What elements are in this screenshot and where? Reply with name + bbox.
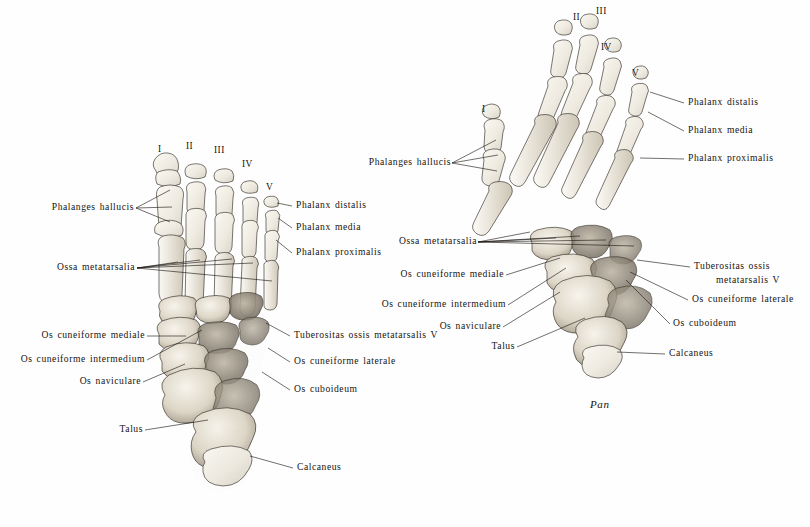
left-foot-skeleton [153,153,280,490]
label-os-naviculare-left: Os naviculare [0,375,141,387]
numeral-3-right: III [596,6,607,16]
label-os-cuneiforme-intermedium-left: Os cuneiforme intermedium [0,353,145,365]
label-calcaneus-right: Calcaneus [669,347,713,359]
label-talus-right: Talus [410,340,515,352]
figure-caption-pan: Pan [590,398,610,410]
label-os-cuneiforme-laterale-right: Os cuneiforme laterale [692,293,794,305]
numeral-4-left: IV [242,159,253,169]
label-tuberositas-line1-right: Tuberositas ossis [694,260,770,272]
caption-initial: Pan [590,398,610,410]
numeral-5-left: V [266,182,273,192]
right-digit-1 [473,104,513,235]
label-os-naviculare-right: Os naviculare [390,320,501,332]
numeral-1-left: I [158,144,162,154]
label-tuberositas-line2-right: metatarsalis V [716,274,780,286]
label-os-cuneiforme-intermedium-right: Os cuneiforme intermedium [362,298,506,310]
numeral-4-right: IV [601,42,612,52]
label-os-cuneiforme-mediale-left: Os cuneiforme mediale [0,329,145,341]
left-digit-1 [153,153,185,304]
right-digits-2-5 [510,14,649,210]
label-os-cuneiforme-mediale-right: Os cuneiforme mediale [360,268,504,280]
label-phalanges-hallucis-left: Phalanges hallucis [0,201,134,213]
label-phalanx-distalis-left: Phalanx distalis [296,199,367,211]
label-phalanx-media-right: Phalanx media [688,124,753,136]
label-os-cuboideum-left: Os cuboideum [294,383,358,395]
label-phalanges-hallucis-right: Phalanges hallucis [318,156,451,168]
label-talus-left: Talus [0,423,143,435]
label-os-cuneiforme-laterale-left: Os cuneiforme laterale [294,355,396,367]
label-phalanx-proximalis-left: Phalanx proximalis [296,246,381,258]
label-ossa-metatarsalia-left: Ossa metatarsalia [0,261,135,273]
numeral-5-right: V [632,68,639,78]
label-calcaneus-left: Calcaneus [297,461,341,473]
numeral-1-right: I [482,104,486,114]
anatomical-plate: Phalanges hallucis Ossa metatarsalia Os … [0,0,810,527]
label-os-cuboideum-right: Os cuboideum [673,317,737,329]
label-phalanx-proximalis-right: Phalanx proximalis [688,152,773,164]
label-phalanx-media-left: Phalanx media [296,221,361,233]
numeral-2-left: II [186,141,193,151]
numeral-2-right: II [573,12,580,22]
label-phalanx-distalis-right: Phalanx distalis [688,96,759,108]
label-ossa-metatarsalia-right: Ossa metatarsalia [344,235,477,247]
numeral-3-left: III [214,145,225,155]
